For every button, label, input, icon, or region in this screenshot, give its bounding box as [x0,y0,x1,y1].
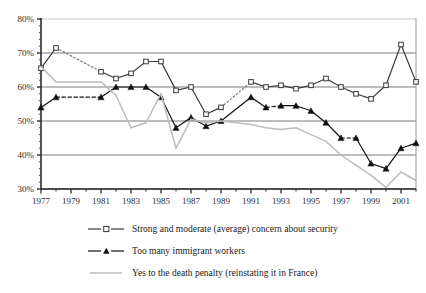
segment-1993-1994 [281,128,296,130]
x-axis-label: 1979 [62,196,81,206]
marker-square-1992 [264,85,269,90]
chart-container: 80%70%60%50%40%30% 197719791981198319851… [0,0,426,293]
marker-square-2001 [399,42,404,47]
x-axis-label: 1977 [32,196,51,206]
y-axis-label: 40% [18,150,35,160]
gridlines [41,19,416,189]
segment-1989-1991 [221,82,251,108]
marker-square-1998 [354,92,359,97]
y-axis-label: 50% [18,116,35,126]
x-axis-label: 1989 [212,196,231,206]
marker-triangle-2002 [413,140,419,146]
segment-1991-1992 [251,124,266,127]
x-axis-label: 1999 [362,196,381,206]
marker-triangle-1991 [248,94,254,100]
segment-1984-1985 [146,94,161,123]
marker-square-1995 [309,83,314,88]
marker-square-1997 [339,85,344,90]
segment-1989-1991 [221,97,251,121]
legend-item-3: Yes to the death penalty (reinstating it… [90,268,317,279]
legend-square-icon [104,226,109,231]
legend-label: Too many immigrant workers [132,246,245,256]
segment-1998-1999 [356,165,371,175]
segment-1998-1999 [356,138,371,164]
x-axis-label: 1985 [152,196,171,206]
marker-square-1993 [279,83,284,88]
y-axis-labels: 80%70%60%50%40%30% [18,14,35,194]
x-axis-label: 1995 [302,196,321,206]
series-2 [38,84,419,171]
chart-legend: Strong and moderate (average) concern ab… [88,224,338,279]
marker-square-1987 [189,85,194,90]
legend-item-2: Too many immigrant workers [88,246,245,256]
legend-label: Yes to the death penalty (reinstating it… [132,268,317,279]
series-3 [41,67,416,188]
segment-1987-1988 [191,87,206,114]
x-axis-label: 1983 [122,196,141,206]
marker-square-2000 [384,83,389,88]
line-chart: 80%70%60%50%40%30% 197719791981198319851… [0,0,426,293]
segment-1992-1993 [266,128,281,130]
segment-1999-2000 [371,175,386,187]
x-axis-label: 1981 [92,196,110,206]
segment-1997-1998 [341,155,356,165]
marker-square-1986 [174,88,179,93]
marker-square-1999 [369,97,374,102]
legend-label: Strong and moderate (average) concern ab… [132,224,338,235]
marker-square-2002 [414,80,419,85]
marker-square-1981 [99,69,104,74]
y-axis-label: 60% [18,82,35,92]
segment-1994-1995 [296,128,311,135]
x-axis-label: 1997 [332,196,351,206]
y-axis-label: 80% [18,14,35,24]
segment-1977-1978 [41,48,56,68]
plot-frame [41,18,416,189]
segment-1995-1996 [311,135,326,142]
marker-square-1982 [114,76,119,81]
segment-1986-1987 [176,119,191,148]
x-axis-label: 1993 [272,196,291,206]
marker-square-1985 [159,59,164,64]
marker-triangle-1999 [368,160,374,166]
segment-1985-1986 [161,62,176,91]
segment-1977-1978 [41,67,56,82]
marker-square-1994 [294,86,299,91]
y-axis-label: 70% [18,48,35,58]
x-axis-labels: 1977197919811983198519871989199119931995… [32,196,410,206]
segment-2000-2001 [386,172,401,187]
segment-2000-2001 [386,45,401,86]
segment-2000-2001 [386,148,401,168]
marker-square-1983 [129,71,134,76]
marker-square-1991 [249,80,254,85]
marker-square-1996 [324,76,329,81]
marker-triangle-1986 [173,125,179,131]
marker-square-1984 [144,59,149,64]
x-axis-label: 1991 [242,196,260,206]
segment-1982-1983 [116,96,131,128]
x-axis-label: 1987 [182,196,201,206]
legend-triangle-icon [103,248,109,254]
segment-1983-1984 [131,123,146,128]
y-axis-label: 30% [18,184,35,194]
segment-1978-1981 [56,48,101,72]
legend-item-1: Strong and moderate (average) concern ab… [88,224,338,235]
x-axis-label: 2001 [392,196,410,206]
segment-1996-1997 [326,141,341,155]
marker-square-1988 [204,112,209,117]
segment-2001-2002 [401,172,416,181]
marker-square-1978 [54,46,59,51]
marker-square-1989 [219,105,224,110]
segment-2001-2002 [401,45,416,82]
series-lines [38,42,419,187]
